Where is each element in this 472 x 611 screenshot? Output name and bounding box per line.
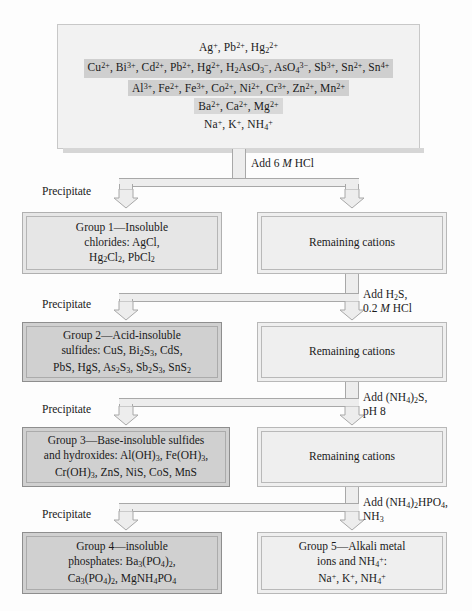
arrow-step4-precipitate [113, 511, 139, 531]
hbar-step3 [119, 398, 359, 407]
group-2-label: Group 2—Acid-insolublesulfides: CuS, Bi2… [23, 328, 221, 376]
reagent-step3: Add (NH4)2S,pH 8 [363, 391, 427, 419]
qualitative-analysis-flowchart: Ag+, Pb2+, Hg22+ Cu2+, Bi3+, Cd2+, Pb2+,… [0, 0, 472, 611]
remaining-cations-label-1: Remaining cations [258, 235, 446, 250]
precipitate-label-step1: Precipitate [42, 185, 91, 197]
precipitate-label-step3: Precipitate [42, 403, 91, 415]
remaining-cations-box-1: Remaining cations [257, 212, 447, 274]
reagent-step1: Add 6 M HCl [251, 157, 314, 171]
arrow-step1-precipitate [113, 189, 139, 209]
group-5-box: Group 5—Alkali metalions and NH4+:Na+, K… [257, 532, 447, 594]
remaining-cations-box-2: Remaining cations [257, 322, 447, 382]
arrow-step3-filtrate [339, 406, 365, 426]
hbar-step4 [119, 503, 359, 512]
precipitate-label-step2: Precipitate [42, 298, 91, 310]
ion-row-group3: Al3+, Fe2+, Fe3+, Co2+, Ni2+, Cr3+, Zn2+… [128, 80, 349, 96]
remaining-cations-label-2: Remaining cations [258, 344, 446, 359]
ion-row-group2: Cu2+, Bi3+, Cd2+, Pb2+, Hg2+, H2AsO3−, A… [84, 59, 394, 77]
group-4-label: Group 4—insolublephosphates: Ba3(PO4)2,C… [23, 539, 221, 587]
stem-step1 [232, 149, 246, 181]
reagent-step2: Add H2S,0.2 M HCl [363, 288, 412, 316]
group-2-box: Group 2—Acid-insolublesulfides: CuS, Bi2… [22, 322, 222, 382]
unknown-mixture-box: Ag+, Pb2+, Hg22+ Cu2+, Bi3+, Cd2+, Pb2+,… [57, 24, 420, 149]
arrow-step3-precipitate [113, 406, 139, 426]
ion-row-group5: Na+, K+, NH4+ [200, 116, 277, 134]
hbar-step1 [119, 178, 359, 187]
precipitate-label-step4: Precipitate [42, 508, 91, 520]
ion-row-group4: Ba2+, Ca2+, Mg2+ [194, 98, 282, 114]
arrow-step1-filtrate [339, 189, 365, 209]
reagent-step4: Add (NH4)2HPO4,NH3 [363, 496, 448, 525]
group-5-label: Group 5—Alkali metalions and NH4+:Na+, K… [258, 539, 446, 587]
hbar-step2 [119, 293, 359, 302]
arrow-step4-filtrate [339, 511, 365, 531]
group-4-box: Group 4—insolublephosphates: Ba3(PO4)2,C… [22, 532, 222, 594]
group-3-label: Group 3—Base-insoluble sulfidesand hydro… [23, 433, 229, 481]
group-1-label: Group 1—Insolublechlorides: AgCl,Hg2Cl2,… [23, 220, 221, 267]
group-1-box: Group 1—Insolublechlorides: AgCl,Hg2Cl2,… [22, 212, 222, 274]
arrow-step2-precipitate [113, 301, 139, 321]
arrow-step2-filtrate [339, 301, 365, 321]
remaining-cations-label-3: Remaining cations [258, 449, 446, 464]
group-3-box: Group 3—Base-insoluble sulfidesand hydro… [22, 427, 230, 487]
remaining-cations-box-3: Remaining cations [257, 427, 447, 487]
ion-row-group1: Ag+, Pb2+, Hg22+ [195, 39, 282, 57]
